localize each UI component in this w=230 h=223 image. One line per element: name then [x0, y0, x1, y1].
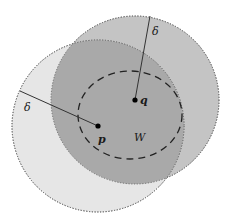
- label-w: W: [134, 131, 147, 144]
- point-p: [95, 123, 100, 128]
- label-delta-top: δ: [152, 25, 159, 38]
- label-p: p: [98, 133, 106, 146]
- label-q: q: [140, 94, 148, 107]
- delta-neighborhood-diagram: p q W δ δ: [0, 0, 230, 223]
- point-q: [132, 97, 137, 102]
- diagram-canvas: p q W δ δ: [0, 0, 230, 223]
- label-delta-left: δ: [24, 101, 31, 114]
